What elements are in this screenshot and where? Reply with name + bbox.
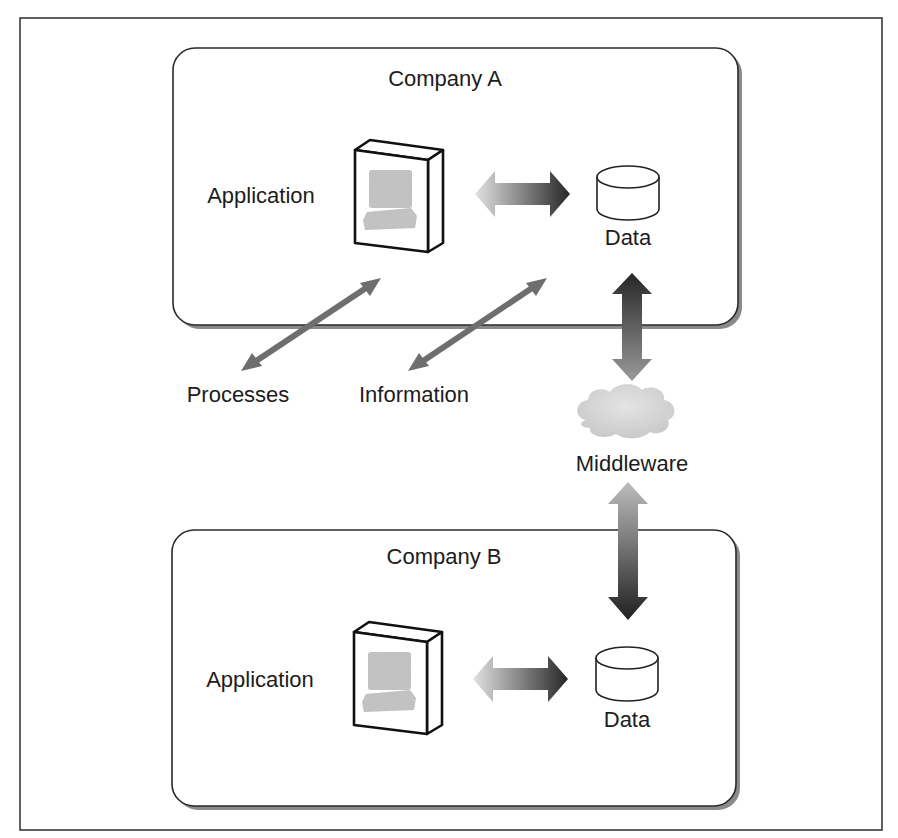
company-b-data-label: Data	[604, 707, 651, 732]
company-b-group: Company B Application Data	[172, 530, 740, 810]
middleware-cloud-icon	[577, 384, 674, 438]
company-a-data-label: Data	[605, 225, 652, 250]
company-b-application-label: Application	[206, 667, 314, 692]
company-a-application-label: Application	[207, 183, 315, 208]
processes-label: Processes	[187, 382, 290, 407]
application-icon	[355, 140, 443, 252]
application-icon	[354, 622, 442, 734]
company-b-title: Company B	[387, 544, 502, 569]
information-label: Information	[359, 382, 469, 407]
middleware-label: Middleware	[576, 451, 689, 476]
database-icon	[596, 647, 658, 701]
company-a-title: Company A	[388, 66, 502, 91]
database-icon	[597, 166, 659, 220]
architecture-diagram: Company A Application Data	[0, 0, 898, 838]
company-a-group: Company A Application Data	[173, 48, 742, 329]
